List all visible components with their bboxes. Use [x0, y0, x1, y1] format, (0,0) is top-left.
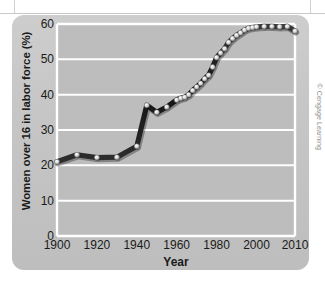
- x-tick-label: 1980: [203, 239, 230, 251]
- data-point-marker: [262, 24, 267, 29]
- x-tick-label: 1920: [84, 239, 111, 251]
- data-point-marker: [94, 155, 99, 160]
- data-point-marker: [134, 144, 139, 149]
- data-point-marker: [190, 88, 195, 93]
- chart-panel: Women over 16 in labor force (%) 0102030…: [12, 15, 309, 270]
- copyright-credit: © Cengage Learning: [316, 83, 323, 150]
- data-point-marker: [74, 152, 79, 157]
- x-tick-label: 1900: [44, 239, 71, 251]
- y-tick-label: 60: [28, 18, 54, 30]
- data-point-marker: [206, 73, 211, 78]
- x-tick-label: 1940: [123, 239, 150, 251]
- chart-svg: [57, 24, 295, 236]
- data-point-marker: [277, 24, 282, 29]
- data-point-marker: [293, 29, 298, 34]
- data-point-marker: [226, 40, 231, 45]
- y-tick-label: 10: [28, 195, 54, 207]
- data-point-marker: [198, 81, 203, 86]
- data-point-marker: [164, 105, 169, 110]
- data-point-marker: [269, 24, 274, 29]
- x-axis-tick-labels: 1900192019401960198020002010: [57, 239, 295, 255]
- x-axis-title: Year: [57, 255, 295, 269]
- y-axis-tick-labels: 0102030405060: [20, 24, 54, 236]
- data-point-marker: [202, 76, 207, 81]
- gridlines: [57, 24, 295, 201]
- x-tick-label: 2000: [243, 239, 270, 251]
- y-tick-label: 40: [28, 89, 54, 101]
- y-tick-label: 50: [28, 53, 54, 65]
- data-point-marker: [285, 24, 290, 29]
- data-point-marker: [218, 50, 223, 55]
- data-point-marker: [55, 159, 60, 164]
- data-point-marker: [254, 24, 259, 29]
- plot-area: [57, 24, 295, 236]
- data-point-marker: [222, 46, 227, 51]
- x-tick-label: 1960: [163, 239, 190, 251]
- x-tick-label: 2010: [282, 239, 309, 251]
- data-point-marker: [144, 103, 149, 108]
- y-tick-label: 20: [28, 159, 54, 171]
- data-point-marker: [210, 65, 215, 70]
- data-point-marker: [194, 84, 199, 89]
- data-point-marker: [114, 155, 119, 160]
- data-point-marker: [186, 92, 191, 97]
- figure-root: Women over 16 in labor force (%) 0102030…: [0, 0, 325, 284]
- data-point-marker: [214, 55, 219, 60]
- data-point-marker: [154, 110, 159, 115]
- y-tick-label: 30: [28, 124, 54, 136]
- page-edge-strip: [0, 0, 325, 14]
